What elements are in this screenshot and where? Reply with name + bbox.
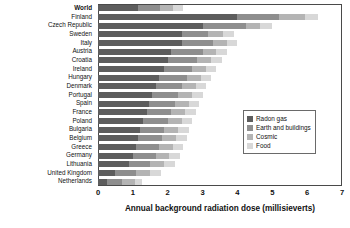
bar-segment-food xyxy=(173,5,183,11)
bar-segment-radon-gas xyxy=(98,14,237,20)
table-row xyxy=(98,179,342,185)
bar-segment-radon-gas xyxy=(98,161,129,167)
bar-segment-earth-and-buildings xyxy=(136,144,159,150)
bar-segment-cosmic xyxy=(178,92,192,98)
bar-segment-cosmic xyxy=(171,109,185,115)
stacked-bar xyxy=(98,161,175,167)
bar-segment-earth-and-buildings xyxy=(203,23,247,29)
legend-item: Radon gas xyxy=(247,114,311,123)
y-axis-label-italy: Italy xyxy=(80,39,92,48)
stacked-bar xyxy=(98,23,272,29)
bar-segment-earth-and-buildings xyxy=(143,118,167,124)
y-axis-label-france: France xyxy=(72,108,92,117)
table-row xyxy=(98,14,342,20)
table-row xyxy=(98,92,342,98)
stacked-bar xyxy=(98,135,187,141)
bar-segment-earth-and-buildings xyxy=(133,153,156,159)
bar-segment-earth-and-buildings xyxy=(129,161,150,167)
x-axis-tick-labels: 01234567 xyxy=(98,188,342,200)
stacked-bar xyxy=(98,83,206,89)
table-row xyxy=(98,101,342,107)
y-axis-label-lithuania: Lithuania xyxy=(66,160,92,169)
bar-segment-earth-and-buildings xyxy=(138,5,160,11)
bar-segment-earth-and-buildings xyxy=(107,179,123,185)
legend-item: Cosmic xyxy=(247,132,311,141)
bar-segment-radon-gas xyxy=(98,5,138,11)
bar-segment-radon-gas xyxy=(98,83,156,89)
bar-segment-radon-gas xyxy=(98,179,107,185)
radiation-dose-chart: WorldFinlandCzech RepublicSwedenItalyAus… xyxy=(0,0,350,228)
bar-segment-radon-gas xyxy=(98,118,143,124)
bar-segment-food xyxy=(150,170,160,176)
stacked-bar xyxy=(98,14,318,20)
legend-swatch-icon xyxy=(247,143,253,149)
table-row xyxy=(98,83,342,89)
bar-segment-food xyxy=(305,14,317,20)
table-row xyxy=(98,23,342,29)
bar-segment-earth-and-buildings xyxy=(182,31,208,37)
y-axis-label-finland: Finland xyxy=(71,13,92,22)
y-axis-label-belgium: Belgium xyxy=(69,134,92,143)
bar-segment-food xyxy=(211,57,221,63)
y-axis-label-netherlands: Netherlands xyxy=(58,177,92,186)
bar-segment-radon-gas xyxy=(98,127,140,133)
x-axis-title: Annual background radiation dose (millis… xyxy=(98,204,342,213)
bar-segment-radon-gas xyxy=(98,170,115,176)
bar-segment-food xyxy=(260,23,272,29)
table-row xyxy=(98,5,342,11)
bar-segment-earth-and-buildings xyxy=(171,49,202,55)
bar-segment-radon-gas xyxy=(98,101,149,107)
bar-segment-cosmic xyxy=(168,118,182,124)
stacked-bar xyxy=(98,118,192,124)
bar-segment-food xyxy=(173,144,183,150)
bar-segment-food xyxy=(223,31,233,37)
x-tick-5: 5 xyxy=(270,188,274,197)
y-axis-label-denmark: Denmark xyxy=(66,82,92,91)
bar-segment-food xyxy=(216,49,226,55)
bar-segment-radon-gas xyxy=(98,92,152,98)
bar-segment-cosmic xyxy=(136,170,150,176)
table-row xyxy=(98,57,342,63)
bar-segment-radon-gas xyxy=(98,109,147,115)
bar-segment-radon-gas xyxy=(98,49,171,55)
table-row xyxy=(98,31,342,37)
table-row xyxy=(98,75,342,81)
table-row xyxy=(98,40,342,46)
bar-segment-food xyxy=(192,92,202,98)
bar-segment-earth-and-buildings xyxy=(156,83,182,89)
y-axis-label-ireland: Ireland xyxy=(73,65,92,74)
bar-segment-radon-gas xyxy=(98,31,182,37)
bar-segment-food xyxy=(135,179,142,185)
bar-segment-cosmic xyxy=(208,31,224,37)
stacked-bar xyxy=(98,179,142,185)
legend-swatch-icon xyxy=(247,134,253,140)
legend-swatch-icon xyxy=(247,116,253,122)
bar-segment-food xyxy=(196,83,206,89)
bar-segment-cosmic xyxy=(156,153,170,159)
legend-item: Food xyxy=(247,141,311,150)
y-axis-label-austria: Austria xyxy=(72,47,92,56)
x-tick-7: 7 xyxy=(340,188,344,197)
y-axis-label-czech-republic: Czech Republic xyxy=(48,21,92,30)
stacked-bar xyxy=(98,153,180,159)
y-axis-label-poland: Poland xyxy=(72,117,92,126)
stacked-bar xyxy=(98,5,183,11)
stacked-bar xyxy=(98,49,227,55)
y-axis-label-greece: Greece xyxy=(71,143,92,152)
x-tick-4: 4 xyxy=(235,188,239,197)
bar-segment-food xyxy=(201,75,211,81)
y-axis-label-hungary: Hungary xyxy=(68,73,92,82)
bar-segment-earth-and-buildings xyxy=(164,66,192,72)
bar-segment-cosmic xyxy=(164,127,178,133)
bar-segment-earth-and-buildings xyxy=(237,14,279,20)
y-axis-label-united-kingdom: United Kingdom xyxy=(47,169,92,178)
bar-segment-radon-gas xyxy=(98,144,136,150)
stacked-bar xyxy=(98,170,161,176)
bar-segment-cosmic xyxy=(192,66,206,72)
table-row xyxy=(98,161,342,167)
y-axis-category-labels: WorldFinlandCzech RepublicSwedenItalyAus… xyxy=(0,4,95,186)
bar-segment-earth-and-buildings xyxy=(168,57,198,63)
y-axis-label-sweden: Sweden xyxy=(69,30,92,39)
y-axis-label-germany: Germany xyxy=(66,151,92,160)
bar-segment-cosmic xyxy=(187,75,201,81)
